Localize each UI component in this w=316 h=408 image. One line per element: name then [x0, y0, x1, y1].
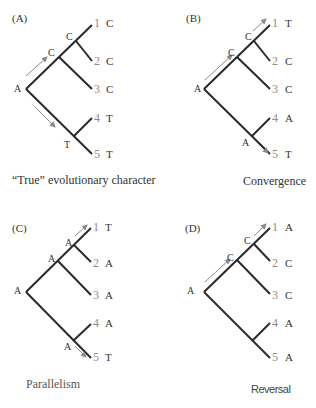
panel-caption: Parallelism: [26, 377, 81, 391]
tip-state: C: [106, 83, 113, 95]
tip-number: 3: [93, 288, 99, 302]
tip-state: A: [285, 221, 293, 233]
tip-state: T: [105, 221, 112, 233]
tip-number: 3: [272, 82, 278, 96]
tip-number: 2: [94, 54, 100, 68]
tip-number: 5: [93, 350, 99, 364]
root-state: A: [14, 83, 22, 94]
tree-branches: [26, 25, 92, 154]
tip-number: 1: [272, 220, 278, 234]
tip-state: T: [106, 112, 113, 124]
tip-list: 1 A 2 C 3 C 4 A 5 A: [272, 220, 293, 364]
tip-state: A: [285, 112, 293, 124]
node-state: A: [64, 341, 72, 352]
root-state: A: [187, 285, 195, 296]
tip-number: 5: [272, 350, 278, 364]
panel-label: (B): [186, 12, 201, 25]
change-arrow-icon: [253, 19, 266, 31]
tip-state: T: [285, 148, 292, 160]
tip-state: A: [285, 317, 293, 329]
node-state: C: [227, 252, 234, 263]
tip-number: 4: [94, 111, 100, 125]
tip-number: 3: [272, 288, 278, 302]
tip-state: A: [285, 351, 293, 363]
panel-b: (B) A C C A 1 T 2 C 3 C 4 A 5 T Converge…: [186, 12, 306, 188]
change-arrow-icon: [257, 142, 268, 153]
panel-label: (C): [12, 222, 27, 235]
panel-label: (A): [12, 12, 28, 25]
panel-label: (D): [185, 222, 201, 235]
tree-branches: [204, 25, 270, 154]
tip-state: T: [106, 148, 113, 160]
change-arrow-icon: [34, 106, 55, 127]
tip-number: 1: [272, 16, 278, 30]
tip-number: 4: [93, 316, 99, 330]
node-state: C: [228, 47, 235, 58]
phylogeny-figure: (A) A C C T 1 C 2 C 3 C 4 T 5 T “True” e…: [0, 0, 316, 408]
node-state: A: [48, 253, 56, 264]
tip-state: A: [105, 317, 113, 329]
tip-number: 3: [94, 82, 100, 96]
tip-state: A: [105, 257, 113, 269]
tree-branches: [204, 228, 270, 358]
panel-caption: “True” evolutionary character: [12, 173, 156, 187]
tip-number: 1: [93, 220, 99, 234]
tip-state: C: [106, 55, 113, 67]
tip-state: C: [285, 289, 292, 301]
tip-number: 2: [272, 256, 278, 270]
node-state: C: [48, 47, 55, 58]
tip-state: T: [285, 17, 292, 29]
tip-number: 2: [272, 54, 278, 68]
tip-number: 2: [93, 256, 99, 270]
tip-state: T: [105, 351, 112, 363]
tip-state: C: [285, 83, 292, 95]
node-state: C: [245, 31, 252, 42]
tip-number: 1: [94, 16, 100, 30]
tip-state: C: [106, 17, 113, 29]
panel-a: (A) A C C T 1 C 2 C 3 C 4 T 5 T “True” e…: [12, 12, 156, 187]
node-state: A: [242, 137, 250, 148]
node-state: C: [244, 235, 251, 246]
panel-caption: Convergence: [243, 174, 306, 188]
root-state: A: [14, 285, 22, 296]
tree-branches: [26, 228, 91, 358]
tip-state: C: [285, 55, 292, 67]
tip-number: 4: [272, 111, 278, 125]
tip-number: 5: [94, 147, 100, 161]
tip-number: 5: [272, 147, 278, 161]
change-arrow-icon: [26, 57, 47, 76]
panel-d: (D) A C C 1 A 2 C 3 C 4 A 5 A Reversal: [185, 220, 293, 395]
panel-c: (C) A A A A 1 T 2 A 3 A 4 A 5 T Parallel…: [12, 220, 113, 391]
tip-state: A: [105, 289, 113, 301]
tip-state: C: [285, 257, 292, 269]
tip-list: 1 C 2 C 3 C 4 T 5 T: [94, 16, 113, 161]
node-state: T: [64, 139, 70, 150]
root-state: A: [194, 83, 202, 94]
node-state: A: [65, 237, 73, 248]
tip-list: 1 T 2 C 3 C 4 A 5 T: [272, 16, 293, 161]
tip-list: 1 T 2 A 3 A 4 A 5 T: [93, 220, 113, 364]
tip-number: 4: [272, 316, 278, 330]
panel-caption: Reversal: [251, 383, 290, 395]
node-state: C: [66, 31, 73, 42]
